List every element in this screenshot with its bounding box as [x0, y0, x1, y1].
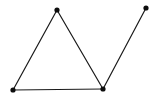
graph-diagram — [0, 0, 155, 105]
edge-C-D — [103, 8, 146, 89]
diagram-canvas — [0, 0, 155, 105]
node-A — [54, 7, 59, 12]
edge-A-C — [57, 10, 103, 89]
node-D — [143, 5, 148, 10]
edges-layer — [13, 8, 146, 90]
edge-A-B — [13, 10, 57, 90]
node-C — [100, 86, 105, 91]
edge-B-C — [13, 89, 103, 90]
node-B — [10, 87, 15, 92]
